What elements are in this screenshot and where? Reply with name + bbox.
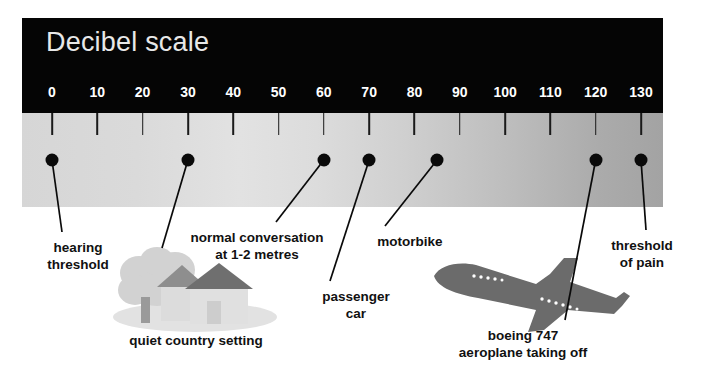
tick-label-10: 10	[90, 84, 106, 100]
tick-mark-20	[142, 113, 144, 135]
data-point-dot-0	[46, 154, 59, 167]
tick-mark-70	[368, 113, 370, 135]
tick-mark-120	[595, 113, 597, 135]
tick-mark-10	[97, 113, 99, 135]
tick-mark-0	[51, 113, 53, 135]
page-title: Decibel scale	[46, 27, 209, 58]
data-point-dot-120	[589, 154, 602, 167]
tick-mark-80	[414, 113, 416, 135]
tick-mark-60	[323, 113, 325, 135]
axis-tick-labels: 0102030405060708090100110120130	[22, 84, 663, 106]
data-point-dot-85	[431, 154, 444, 167]
data-point-dot-70	[363, 154, 376, 167]
tick-label-130: 130	[629, 84, 652, 100]
tick-mark-130	[640, 113, 642, 135]
tick-label-30: 30	[180, 84, 196, 100]
tick-label-110: 110	[539, 84, 562, 100]
decibel-scale-infographic: Decibel scale 01020304050607080901001101…	[0, 0, 703, 377]
tick-mark-100	[504, 113, 506, 135]
label-hearing-threshold: hearing threshold	[47, 239, 109, 274]
data-point-dot-60	[317, 154, 330, 167]
tick-label-70: 70	[361, 84, 377, 100]
data-point-dot-30	[181, 154, 194, 167]
tick-mark-40	[232, 113, 234, 135]
tick-label-40: 40	[225, 84, 241, 100]
tick-mark-90	[459, 113, 461, 135]
tick-label-80: 80	[407, 84, 423, 100]
tick-label-0: 0	[48, 84, 56, 100]
boeing-747-illustration	[418, 240, 632, 336]
tick-mark-30	[187, 113, 189, 135]
tick-label-100: 100	[493, 84, 516, 100]
label-motorbike: motorbike	[377, 233, 442, 250]
tick-mark-110	[550, 113, 552, 135]
label-passenger-car: passenger car	[322, 288, 390, 323]
label-normal-conversation: normal conversation at 1-2 metres	[191, 229, 324, 264]
tick-label-50: 50	[271, 84, 287, 100]
tick-label-60: 60	[316, 84, 332, 100]
tick-label-90: 90	[452, 84, 468, 100]
label-boeing-747: boeing 747 aeroplane taking off	[459, 327, 587, 362]
label-quiet-country: quiet country setting	[129, 332, 263, 349]
tick-label-20: 20	[135, 84, 151, 100]
tick-label-120: 120	[584, 84, 607, 100]
data-point-dot-130	[635, 154, 648, 167]
label-threshold-of-pain: threshold of pain	[611, 237, 673, 272]
gradient-band	[22, 113, 663, 207]
tick-mark-50	[278, 113, 280, 135]
